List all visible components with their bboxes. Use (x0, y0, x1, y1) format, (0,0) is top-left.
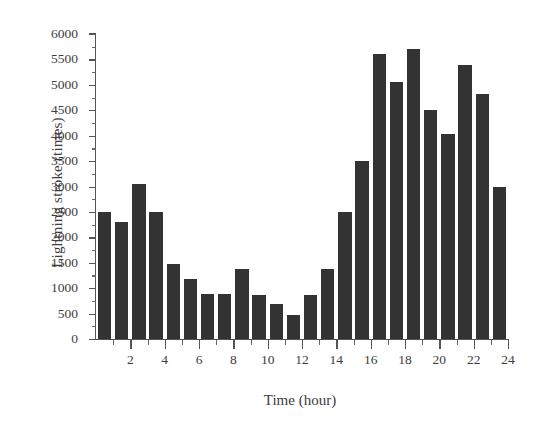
bar (167, 264, 180, 339)
y-tick-1500: 1500 (89, 263, 96, 264)
bar (321, 269, 334, 339)
lightning-stroke-bar-chart: Lightning stroke (times) Time (hour) 050… (0, 0, 548, 434)
x-minor-tick-17 (388, 340, 389, 345)
y-minor-tick-5750 (92, 47, 96, 48)
x-tick-10 (268, 340, 269, 349)
y-minor-tick-2750 (92, 199, 96, 200)
bar (407, 49, 420, 339)
y-tick-label-0: 0 (71, 331, 78, 347)
bar (373, 54, 386, 339)
bar (287, 315, 300, 339)
y-minor-tick-1750 (92, 250, 96, 251)
x-tick-16 (371, 340, 372, 349)
bar (441, 134, 454, 339)
x-tick-label-10: 10 (261, 352, 275, 368)
x-tick-label-4: 4 (161, 352, 168, 368)
y-minor-tick-4250 (92, 123, 96, 124)
y-tick-label-3000: 3000 (51, 179, 78, 195)
y-minor-tick-3250 (92, 174, 96, 175)
x-tick-label-12: 12 (295, 352, 309, 368)
bar (235, 269, 248, 339)
bar (270, 304, 283, 339)
x-tick-8 (233, 340, 234, 349)
x-minor-tick-7 (216, 340, 217, 345)
y-tick-5000: 5000 (89, 85, 96, 86)
y-tick-6000: 6000 (89, 34, 96, 35)
x-tick-4 (165, 340, 166, 349)
x-minor-tick-15 (354, 340, 355, 345)
x-minor-tick-19 (422, 340, 423, 345)
x-tick-label-20: 20 (433, 352, 447, 368)
x-tick-label-8: 8 (230, 352, 237, 368)
x-minor-tick-11 (285, 340, 286, 345)
x-minor-tick-13 (319, 340, 320, 345)
x-tick-24 (508, 340, 509, 349)
y-tick-0: 0 (89, 339, 96, 340)
bar (132, 184, 145, 339)
bar (476, 94, 489, 339)
bar (149, 212, 162, 339)
y-tick-label-2500: 2500 (51, 204, 78, 220)
bar (304, 295, 317, 339)
y-tick-label-1500: 1500 (51, 255, 78, 271)
y-tick-1000: 1000 (89, 288, 96, 289)
y-tick-4000: 4000 (89, 136, 96, 137)
bar (338, 212, 351, 339)
bar (115, 222, 128, 339)
x-tick-14 (336, 340, 337, 349)
y-tick-label-4500: 4500 (51, 102, 78, 118)
y-minor-tick-2250 (92, 225, 96, 226)
y-tick-label-4000: 4000 (51, 128, 78, 144)
x-minor-tick-21 (457, 340, 458, 345)
y-minor-tick-5250 (92, 72, 96, 73)
x-tick-label-2: 2 (127, 352, 134, 368)
y-tick-label-2000: 2000 (51, 229, 78, 245)
y-tick-3500: 3500 (89, 161, 96, 162)
bar (184, 279, 197, 339)
x-tick-label-22: 22 (467, 352, 481, 368)
x-minor-tick-9 (251, 340, 252, 345)
x-tick-12 (302, 340, 303, 349)
y-tick-3000: 3000 (89, 187, 96, 188)
y-tick-4500: 4500 (89, 110, 96, 111)
y-minor-tick-750 (92, 301, 96, 302)
x-tick-2 (130, 340, 131, 349)
x-tick-18 (405, 340, 406, 349)
y-tick-label-6000: 6000 (51, 26, 78, 42)
x-tick-label-18: 18 (398, 352, 412, 368)
bar (218, 294, 231, 339)
x-tick-label-6: 6 (196, 352, 203, 368)
bar (458, 65, 471, 340)
x-minor-tick-1 (113, 340, 114, 345)
y-minor-tick-250 (92, 326, 96, 327)
y-tick-label-5000: 5000 (51, 77, 78, 93)
y-minor-tick-3750 (92, 148, 96, 149)
y-tick-label-1000: 1000 (51, 280, 78, 296)
y-tick-2000: 2000 (89, 237, 96, 238)
y-tick-2500: 2500 (89, 212, 96, 213)
x-tick-label-24: 24 (501, 352, 515, 368)
y-tick-5500: 5500 (89, 59, 96, 60)
bar (355, 161, 368, 339)
bar (390, 82, 403, 339)
x-minor-tick-5 (182, 340, 183, 345)
bar (493, 187, 506, 340)
y-tick-label-3500: 3500 (51, 153, 78, 169)
plot-area: 0500100015002000250030003500400045005000… (96, 34, 508, 339)
x-axis-title: Time (hour) (90, 392, 510, 409)
y-tick-500: 500 (89, 314, 96, 315)
y-tick-label-500: 500 (58, 306, 78, 322)
x-tick-6 (199, 340, 200, 349)
x-tick-label-14: 14 (330, 352, 344, 368)
x-minor-tick-23 (491, 340, 492, 345)
bar (201, 294, 214, 339)
y-minor-tick-4750 (92, 98, 96, 99)
bar (98, 212, 111, 339)
y-tick-label-5500: 5500 (51, 51, 78, 67)
y-minor-tick-1250 (92, 275, 96, 276)
x-minor-tick-3 (148, 340, 149, 345)
bar (424, 110, 437, 339)
x-tick-20 (439, 340, 440, 349)
x-tick-label-16: 16 (364, 352, 378, 368)
x-tick-22 (474, 340, 475, 349)
